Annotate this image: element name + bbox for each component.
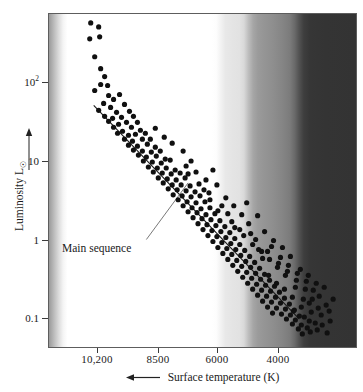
star-point: [220, 251, 225, 256]
star-point: [280, 245, 285, 250]
star-point: [277, 290, 282, 295]
star-point: [156, 175, 161, 180]
star-point: [203, 177, 208, 182]
star-point: [225, 211, 230, 216]
star-point: [106, 119, 111, 124]
star-point: [254, 282, 259, 287]
star-point: [207, 205, 212, 210]
star-point: [111, 97, 116, 102]
star-point: [307, 318, 312, 323]
star-point: [136, 152, 141, 157]
star-point: [203, 212, 208, 217]
star-point: [268, 289, 273, 294]
star-point: [179, 182, 184, 187]
star-point: [237, 242, 242, 247]
star-point: [265, 249, 270, 254]
y-tick-label: 0.1: [25, 312, 39, 324]
star-point: [150, 159, 155, 164]
star-point: [117, 92, 122, 97]
hr-diagram-figure: 1021010.1 Luminosity L☉ 10,2008500600040…: [0, 0, 363, 392]
x-axis-arrow-icon: [126, 373, 160, 382]
star-point: [256, 247, 261, 252]
star-point: [274, 281, 279, 286]
star-point: [303, 287, 308, 292]
star-point: [235, 269, 240, 274]
star-point: [243, 259, 248, 264]
star-point: [184, 188, 189, 193]
star-point: [253, 237, 258, 242]
star-point: [278, 301, 283, 306]
star-point: [186, 209, 191, 214]
star-point: [138, 128, 143, 133]
star-point: [255, 213, 260, 218]
star-point: [165, 176, 170, 181]
star-point: [274, 305, 279, 310]
star-point: [92, 54, 97, 59]
star-point: [204, 222, 209, 227]
star-point: [283, 273, 288, 278]
star-point: [217, 218, 222, 223]
star-point: [173, 167, 178, 172]
star-point: [181, 149, 186, 154]
star-point: [250, 242, 255, 247]
star-point: [324, 303, 329, 308]
star-point: [271, 238, 276, 243]
star-point: [215, 208, 220, 213]
star-point: [237, 227, 242, 232]
star-point: [208, 217, 213, 222]
star-point: [153, 145, 158, 150]
star-point: [209, 228, 214, 233]
star-point: [316, 305, 321, 310]
star-point: [98, 66, 103, 71]
star-point: [115, 131, 120, 136]
y-tick-mark: [42, 240, 48, 241]
star-point: [122, 137, 127, 142]
star-point: [198, 206, 203, 211]
star-point: [153, 126, 158, 131]
x-tick-label: 8500: [147, 353, 170, 365]
star-point: [207, 197, 212, 202]
star-point: [300, 331, 305, 336]
star-point: [214, 234, 219, 239]
star-point: [322, 285, 327, 290]
star-point: [228, 241, 233, 246]
star-point: [319, 312, 324, 317]
star-point: [108, 105, 113, 110]
star-point: [174, 177, 179, 182]
star-point: [279, 311, 284, 316]
star-point: [234, 258, 239, 263]
y-tick-mark: [42, 82, 48, 83]
star-point: [269, 300, 274, 305]
star-point: [286, 263, 291, 268]
star-point: [325, 330, 330, 335]
star-point: [190, 215, 195, 220]
star-point: [92, 88, 97, 93]
star-point: [229, 252, 234, 257]
y-tick-mark: [42, 318, 48, 319]
star-point: [230, 263, 235, 268]
star-point: [188, 194, 193, 199]
star-point: [239, 264, 244, 269]
star-point: [232, 225, 237, 230]
star-point: [210, 167, 215, 172]
x-axis-title-row: Surface temperature (K): [48, 371, 357, 383]
star-point: [309, 309, 314, 314]
star-point: [215, 245, 220, 250]
star-point: [180, 193, 185, 198]
star-point: [266, 273, 271, 278]
star-point: [193, 200, 198, 205]
star-point: [246, 221, 251, 226]
star-point: [267, 278, 272, 283]
star-point: [159, 160, 164, 165]
star-point: [219, 240, 224, 245]
star-point: [225, 257, 230, 262]
star-point: [320, 322, 325, 327]
star-point: [160, 170, 165, 175]
star-point: [176, 197, 181, 202]
star-point: [233, 247, 238, 252]
star-point: [291, 308, 296, 313]
star-point: [192, 189, 197, 194]
star-point: [299, 305, 304, 310]
star-point: [87, 36, 92, 41]
star-point: [155, 165, 160, 170]
